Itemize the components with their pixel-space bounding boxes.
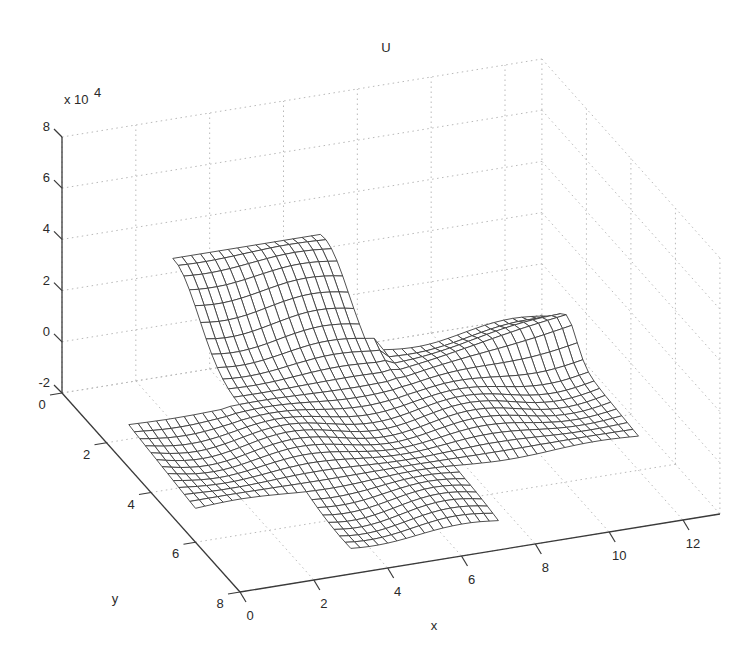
z-tick: [54, 180, 62, 188]
z-multiplier-power: 4: [94, 85, 101, 100]
y-tick-label: 2: [83, 447, 90, 462]
y-axis-title: y: [112, 591, 119, 606]
y-tick: [184, 542, 196, 544]
grid-line: [62, 161, 542, 239]
z-multiplier-label: x 10: [64, 92, 89, 107]
x-tick-label: 10: [612, 548, 626, 563]
z-tick-label: 4: [43, 221, 50, 236]
x-tick-label: 6: [468, 572, 475, 587]
y-tick-label: 6: [172, 546, 179, 561]
z-tick-label: 8: [43, 119, 50, 134]
surface-mesh: [129, 234, 639, 548]
y-tick-label: 4: [127, 497, 134, 512]
x-tick: [609, 532, 615, 542]
figure: -20246802468024681012 U x 10 4 x y: [0, 0, 747, 663]
grid-line: [62, 110, 542, 188]
x-tick: [388, 568, 394, 578]
y-tick: [228, 592, 240, 594]
y-tick: [50, 393, 62, 395]
grid-line: [62, 59, 542, 137]
z-tick: [54, 283, 62, 291]
x-tick: [462, 556, 468, 566]
x-axis-title: x: [431, 618, 438, 633]
z-tick: [54, 231, 62, 239]
x-tick-label: 4: [394, 584, 401, 599]
x-tick-label: 0: [246, 608, 253, 623]
z-tick: [54, 385, 62, 393]
surface-plot: -20246802468024681012 U x 10 4 x y: [0, 0, 747, 663]
y-tick: [139, 493, 151, 495]
z-tick-label: 2: [43, 273, 50, 288]
z-tick-label: 6: [43, 170, 50, 185]
y-tick-label: 8: [216, 596, 223, 611]
y-tick-label: 0: [38, 397, 45, 412]
plot-title: U: [381, 40, 390, 55]
x-tick: [683, 520, 689, 530]
x-tick: [240, 592, 246, 602]
z-tick: [54, 334, 62, 342]
z-tick-label: 0: [43, 324, 50, 339]
x-tick-label: 8: [542, 560, 549, 575]
z-tick-label: -2: [38, 375, 50, 390]
x-tick-label: 12: [686, 536, 700, 551]
x-tick: [314, 580, 320, 590]
x-tick: [535, 544, 541, 554]
y-tick: [95, 443, 107, 445]
x-axis-line: [240, 514, 720, 592]
x-tick-label: 2: [320, 596, 327, 611]
z-tick: [54, 129, 62, 137]
